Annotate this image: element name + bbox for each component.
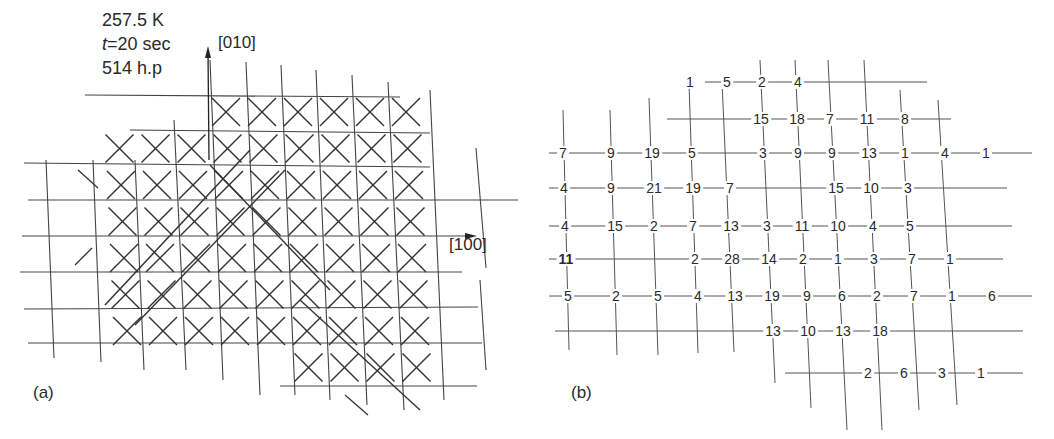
grid-cell-value: 4 <box>939 146 951 160</box>
grid-cell-value: 18 <box>787 112 807 126</box>
grid-cell-value: 2 <box>756 75 768 89</box>
grid-cell-value: 9 <box>605 181 617 195</box>
grid-cell-value: 5 <box>652 289 664 303</box>
grid-cell-value: 15 <box>826 181 846 195</box>
axis-010-label: [010] <box>218 33 256 53</box>
grid-cell-value: 2 <box>610 289 622 303</box>
grid-cell-value: 28 <box>722 252 742 266</box>
grid-cell-value: 19 <box>683 181 703 195</box>
grid-cell-value: 4 <box>558 181 570 195</box>
panel-a-lattice-diagram: 257.5 K t=20 sec 514 h.p [010] [100] (a) <box>0 0 527 439</box>
temperature-label: 257.5 K <box>102 8 171 32</box>
panel-a-label: (a) <box>33 383 54 403</box>
lattice-grid-a <box>0 0 527 439</box>
grid-cell-value: 7 <box>824 112 836 126</box>
grid-cell-value: 1 <box>684 75 696 89</box>
grid-cell-value: 15 <box>751 112 771 126</box>
grid-cell-value: 21 <box>644 181 664 195</box>
grid-cell-value: 13 <box>725 289 745 303</box>
grid-cell-value: 13 <box>833 324 853 338</box>
grid-cell-value: 1 <box>946 289 958 303</box>
grid-cell-value: 6 <box>898 366 910 380</box>
grid-cell-value: 13 <box>763 324 783 338</box>
panel-b-count-grid: 1524151871187919539913141492119715103415… <box>527 0 1054 439</box>
grid-cell-value: 4 <box>559 219 571 233</box>
grid-cell-value: 3 <box>868 252 880 266</box>
conditions-block: 257.5 K t=20 sec 514 h.p <box>102 8 171 80</box>
grid-cell-value: 2 <box>689 252 701 266</box>
grid-cell-value: 9 <box>826 146 838 160</box>
grid-cell-value: 1 <box>975 366 987 380</box>
grid-cell-value: 18 <box>870 324 890 338</box>
grid-cell-value: 1 <box>832 252 844 266</box>
grid-cell-value: 1 <box>899 146 911 160</box>
grid-cell-value: 11 <box>793 219 812 233</box>
grid-cell-value: 4 <box>792 75 804 89</box>
grid-cell-value: 11 <box>557 252 576 266</box>
grid-cell-value: 1 <box>980 146 992 160</box>
grid-cell-value: 7 <box>908 289 920 303</box>
grid-cell-value: 10 <box>861 181 881 195</box>
grid-cell-value: 5 <box>904 219 916 233</box>
panel-b-label: (b) <box>571 383 592 403</box>
grid-cell-value: 3 <box>936 366 948 380</box>
grid-cell-value: 5 <box>721 75 733 89</box>
grid-cell-value: 7 <box>557 146 569 160</box>
grid-cell-value: 8 <box>899 112 911 126</box>
grid-cell-value: 6 <box>836 289 848 303</box>
grid-cell-value: 13 <box>859 146 879 160</box>
grid-cell-value: 2 <box>862 366 874 380</box>
grid-cell-value: 9 <box>801 289 813 303</box>
grid-cell-value: 14 <box>759 252 779 266</box>
pulses-label: 514 h.p <box>102 56 171 80</box>
axis-100-label: [100] <box>449 235 487 255</box>
grid-cell-value: 10 <box>798 324 818 338</box>
grid-cell-value: 3 <box>757 146 769 160</box>
grid-cell-value: 19 <box>762 289 782 303</box>
grid-cell-value: 7 <box>687 219 699 233</box>
grid-cell-value: 9 <box>792 146 804 160</box>
grid-cell-value: 1 <box>944 252 956 266</box>
grid-cell-value: 3 <box>902 181 914 195</box>
grid-cell-value: 13 <box>721 219 741 233</box>
grid-cell-value: 2 <box>871 289 883 303</box>
grid-cell-value: 2 <box>797 252 809 266</box>
grid-cell-value: 5 <box>686 146 698 160</box>
grid-cell-value: 4 <box>692 289 704 303</box>
grid-cell-value: 4 <box>867 219 879 233</box>
grid-cell-value: 10 <box>828 219 848 233</box>
time-label: t=20 sec <box>102 32 171 56</box>
grid-cell-value: 7 <box>724 181 736 195</box>
grid-cell-value: 5 <box>562 289 574 303</box>
grid-cell-value: 6 <box>986 289 998 303</box>
grid-cell-value: 3 <box>761 219 773 233</box>
grid-cell-value: 2 <box>648 219 660 233</box>
grid-cell-value: 19 <box>642 146 662 160</box>
grid-cell-value: 9 <box>605 146 617 160</box>
grid-cell-value: 7 <box>906 252 918 266</box>
grid-cell-value: 15 <box>605 219 625 233</box>
grid-cell-value: 11 <box>858 112 877 126</box>
